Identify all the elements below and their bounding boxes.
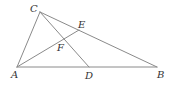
- label-C: C: [30, 3, 38, 14]
- label-F: F: [56, 42, 65, 53]
- label-A: A: [10, 69, 18, 80]
- labels-group: C E F A D B: [10, 3, 164, 81]
- segments-group: [17, 12, 157, 67]
- segment-CB: [40, 12, 157, 67]
- label-E: E: [77, 19, 86, 30]
- label-D: D: [84, 70, 93, 81]
- segment-AE: [17, 30, 79, 67]
- label-B: B: [156, 69, 164, 80]
- triangle-diagram: C E F A D B: [0, 0, 170, 85]
- segment-AC: [17, 12, 40, 67]
